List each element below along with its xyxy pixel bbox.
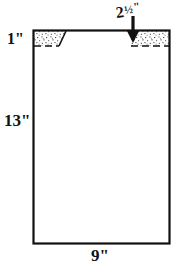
label-width: 9": [91, 247, 109, 264]
notch-fraction: ½: [124, 4, 134, 16]
label-height: 13": [4, 112, 30, 129]
label-notch-width: 2½": [115, 1, 141, 21]
rectangle-outline: [34, 31, 170, 244]
notch-unit-mark: ": [132, 0, 140, 14]
figure-container: 1" 13" 9" 2½": [0, 0, 187, 274]
label-band-depth: 1": [7, 31, 24, 47]
left-shaded-band: [33, 30, 69, 47]
rectangle-diagram-svg: [0, 0, 187, 274]
